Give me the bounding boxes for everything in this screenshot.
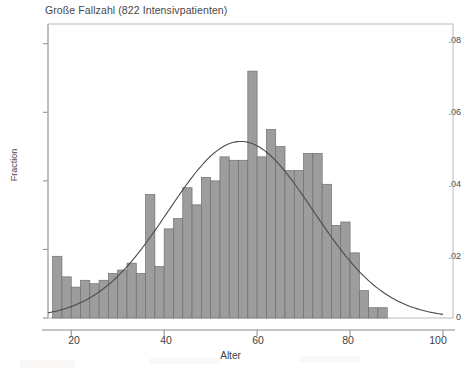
histogram-bar: [285, 171, 294, 318]
histogram-bar: [248, 71, 257, 318]
histogram-bars: [53, 71, 388, 318]
histogram-bar: [62, 277, 71, 318]
histogram-bar: [173, 219, 182, 318]
histogram-bar: [229, 160, 238, 318]
histogram-figure: Große Fallzahl (822 Intensivpatienten) F…: [0, 0, 461, 375]
histogram-bar: [239, 160, 248, 318]
histogram-bar: [146, 195, 155, 318]
histogram-bar: [71, 287, 80, 318]
histogram-bar: [155, 267, 164, 318]
histogram-bar: [53, 256, 62, 318]
histogram-bar: [304, 153, 313, 318]
histogram-bar: [118, 270, 127, 318]
histogram-bar: [257, 157, 266, 318]
histogram-bar: [359, 291, 368, 318]
histogram-bar: [201, 177, 210, 318]
histogram-bar: [276, 147, 285, 318]
histogram-bar: [90, 284, 99, 318]
x-tick-marks: [71, 330, 443, 336]
histogram-bar: [164, 229, 173, 318]
y-tick-marks: [43, 44, 48, 318]
scan-artifact-1: [20, 360, 75, 368]
histogram-bar: [378, 308, 387, 318]
histogram-bar: [192, 205, 201, 318]
histogram-bar: [266, 129, 275, 318]
scan-artifact-2: [150, 358, 220, 364]
plot-canvas: [0, 0, 461, 375]
histogram-bar: [136, 273, 145, 318]
histogram-bar: [294, 171, 303, 318]
histogram-bar: [127, 263, 136, 318]
histogram-bar: [322, 184, 331, 318]
histogram-bar: [341, 222, 350, 318]
histogram-bar: [220, 157, 229, 318]
histogram-bar: [183, 188, 192, 318]
histogram-bar: [313, 153, 322, 318]
histogram-bar: [369, 308, 378, 318]
histogram-bar: [211, 181, 220, 318]
scan-artifact-3: [300, 356, 360, 362]
